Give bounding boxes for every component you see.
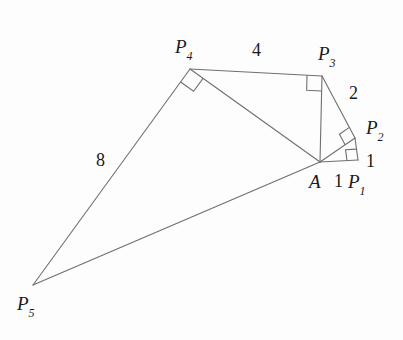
edge-a-p4 bbox=[190, 69, 320, 162]
vertex-label-p1: P1 bbox=[348, 172, 366, 194]
vertex-label-p4-name: P bbox=[175, 36, 187, 57]
vertex-label-p3-subscript: 3 bbox=[330, 56, 336, 70]
vertex-label-p1-name: P bbox=[348, 171, 360, 192]
vertex-label-a: A bbox=[309, 172, 321, 191]
vertex-label-p5-name: P bbox=[17, 293, 29, 314]
vertex-label-p4-subscript: 4 bbox=[187, 49, 193, 63]
len-p2-p3: 2 bbox=[349, 84, 358, 102]
vertex-label-p3-name: P bbox=[318, 43, 330, 64]
geometry-diagram bbox=[0, 0, 403, 340]
vertex-label-p1-subscript: 1 bbox=[360, 184, 366, 198]
edge-a-p3 bbox=[320, 76, 322, 162]
len-p3-p4: 4 bbox=[252, 41, 261, 59]
vertex-label-p3: P3 bbox=[318, 44, 336, 66]
right-angle-p4-icon bbox=[181, 78, 203, 91]
edge-a-p1 bbox=[320, 160, 358, 162]
vertex-label-a-name: A bbox=[309, 171, 321, 192]
edge-p4-p5 bbox=[33, 69, 190, 285]
vertex-label-p2: P2 bbox=[366, 118, 384, 140]
len-a-p1: 1 bbox=[334, 172, 343, 190]
edge-p3-p4 bbox=[190, 69, 322, 76]
vertex-label-p5-subscript: 5 bbox=[29, 306, 35, 320]
right-angle-markers-group bbox=[181, 75, 357, 160]
right-angle-p3-icon bbox=[307, 75, 322, 91]
edge-a-p5 bbox=[33, 162, 320, 285]
figure-canvas: AP1P2P3P4P511248 bbox=[0, 0, 403, 340]
vertex-label-p2-subscript: 2 bbox=[378, 130, 384, 144]
vertex-label-p4: P4 bbox=[175, 37, 193, 59]
len-p4-p5: 8 bbox=[96, 151, 105, 169]
right-angle-p2-icon bbox=[339, 127, 349, 144]
len-p1-p2: 1 bbox=[366, 152, 375, 170]
right-angle-p1-icon bbox=[346, 149, 357, 160]
vertex-label-p5: P5 bbox=[17, 294, 35, 316]
vertex-label-p2-name: P bbox=[366, 117, 378, 138]
